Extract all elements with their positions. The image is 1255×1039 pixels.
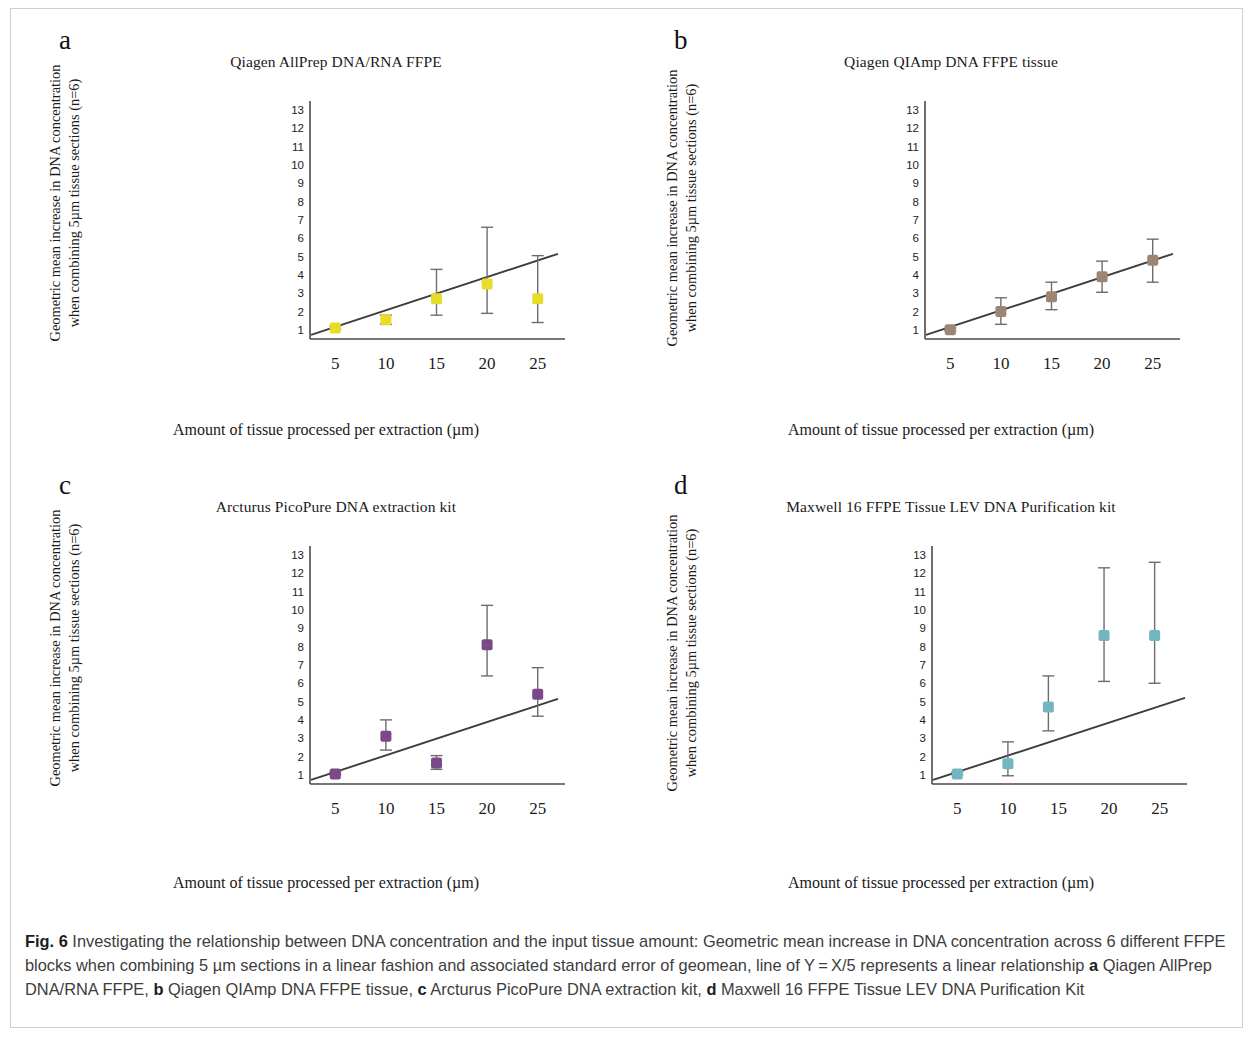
plot-area-d: 12345678910111213510152025 [888,536,1193,834]
y-tick-label: 11 [914,586,926,598]
plot-area-c: 12345678910111213510152025 [266,536,571,834]
y-tick-label: 13 [291,549,304,561]
y-tick-label: 11 [292,586,304,598]
caption-marker-c: c [418,980,427,998]
chart-svg-d: 12345678910111213510152025 [888,536,1193,834]
y-tick-label: 11 [907,141,919,153]
y-tick-label: 7 [920,659,926,671]
data-marker [1097,271,1108,282]
panel-letter-b: b [674,27,688,54]
data-marker [952,768,963,779]
y-tick-label: 3 [920,732,926,744]
y-tick-label: 6 [298,677,304,689]
data-point-group [329,768,341,779]
data-marker [482,279,493,290]
x-tick-label: 25 [529,799,546,818]
y-tick-label: 3 [298,732,304,744]
panel-letter-d: d [674,472,688,499]
y-tick-label: 13 [906,104,919,116]
plot-area-b: 12345678910111213510152025 [881,91,1186,389]
y-tick-label: 3 [298,287,304,299]
y-tick-label: 7 [913,214,919,226]
x-tick-label: 5 [331,354,340,373]
y-axis-label-b: Geometric mean increase in DNA concentra… [663,58,701,358]
y-tick-label: 10 [913,604,926,616]
data-point-group [1046,282,1058,309]
panel-b: b Qiagen QIAmp DNA FFPE tissue Geometric… [626,9,1241,461]
x-tick-label: 15 [428,354,445,373]
data-marker [380,314,391,325]
y-tick-label: 10 [291,159,304,171]
y-tick-label: 9 [920,622,926,634]
x-tick-label: 5 [953,799,962,818]
data-point-group [1002,742,1014,776]
data-marker [1043,702,1054,713]
figure-panels: a Qiagen AllPrep DNA/RNA FFPE Geometric … [11,9,1242,914]
x-tick-label: 25 [1151,799,1168,818]
reference-line [933,698,1185,780]
y-tick-label: 5 [913,251,919,263]
panel-d: d Maxwell 16 FFPE Tissue LEV DNA Purific… [626,454,1241,906]
x-tick-label: 10 [377,799,394,818]
y-tick-label: 2 [913,306,919,318]
y-axis-label-line2: when combining 5µm tissue sections (n=6) [682,503,701,803]
y-tick-label: 3 [913,287,919,299]
data-marker [330,323,341,334]
data-marker [1147,255,1158,266]
x-tick-label: 10 [377,354,394,373]
data-point-group [1098,568,1110,682]
y-tick-label: 1 [920,769,926,781]
data-point-group [532,668,544,717]
data-point-group [431,756,443,770]
y-tick-label: 8 [298,196,304,208]
data-marker [482,639,493,650]
y-axis-label-c: Geometric mean increase in DNA concentra… [46,498,84,798]
x-tick-label: 20 [479,799,496,818]
data-marker [380,731,391,742]
data-point-group [380,720,392,750]
panel-a: a Qiagen AllPrep DNA/RNA FFPE Geometric … [11,9,626,461]
data-marker [1046,291,1057,302]
y-tick-label: 8 [913,196,919,208]
panel-title-b: Qiagen QIAmp DNA FFPE tissue [681,53,1221,71]
x-tick-label: 25 [529,354,546,373]
caption-text-c: Arcturus PicoPure DNA extraction kit, [427,980,707,998]
x-axis-label-a: Amount of tissue processed per extractio… [46,421,606,439]
y-axis-label-line1: Geometric mean increase in DNA concentra… [663,58,682,358]
y-axis-label-line1: Geometric mean increase in DNA concentra… [663,503,682,803]
chart-svg-a: 12345678910111213510152025 [266,91,571,389]
y-tick-label: 9 [913,177,919,189]
data-point-group [995,298,1007,325]
y-tick-label: 12 [291,567,304,579]
panel-title-a: Qiagen AllPrep DNA/RNA FFPE [66,53,606,71]
data-marker [532,689,543,700]
data-marker [1149,630,1160,641]
y-tick-label: 4 [298,269,305,281]
x-tick-label: 5 [946,354,955,373]
chart-svg-b: 12345678910111213510152025 [881,91,1186,389]
y-tick-label: 1 [298,769,304,781]
data-marker [1099,630,1110,641]
y-tick-label: 12 [913,567,926,579]
y-tick-label: 9 [298,177,304,189]
y-tick-label: 10 [906,159,919,171]
data-marker [532,293,543,304]
panel-title-c: Arcturus PicoPure DNA extraction kit [66,498,606,516]
y-tick-label: 5 [920,696,926,708]
y-tick-label: 6 [920,677,926,689]
y-axis-label-line2: when combining 5µm tissue sections (n=6) [65,53,84,353]
y-tick-label: 12 [291,122,304,134]
caption-body: Investigating the relationship between D… [25,932,1226,974]
y-axis-label-a: Geometric mean increase in DNA concentra… [46,53,84,353]
x-axis-label-d: Amount of tissue processed per extractio… [661,874,1221,892]
data-point-group [532,256,544,323]
caption-marker-b: b [153,980,163,998]
y-tick-label: 1 [298,324,304,336]
x-tick-label: 20 [1094,354,1111,373]
x-tick-label: 15 [1043,354,1060,373]
data-marker [1002,758,1013,769]
y-axis-label-line1: Geometric mean increase in DNA concentra… [46,498,65,798]
y-axis-label-line1: Geometric mean increase in DNA concentra… [46,53,65,353]
x-tick-label: 25 [1144,354,1161,373]
x-axis-label-b: Amount of tissue processed per extractio… [661,421,1221,439]
